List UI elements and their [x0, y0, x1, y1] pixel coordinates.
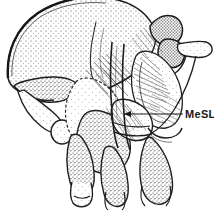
anatomical-figure: MeSL — [0, 0, 214, 210]
label-mesl: MeSL — [185, 109, 214, 120]
leg-left-tarsus — [71, 182, 93, 207]
figure-drawing — [0, 0, 214, 210]
leg-right-femur — [140, 137, 173, 204]
lateral-arm-right — [177, 41, 212, 57]
